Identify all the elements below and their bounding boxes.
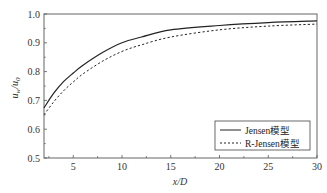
y-tick-label: 0.6 bbox=[28, 124, 41, 135]
x-tick-label: 25 bbox=[263, 161, 273, 172]
y-tick-label: 0.5 bbox=[28, 153, 41, 164]
y-tick-label: 0.7 bbox=[28, 95, 41, 106]
x-axis-title: x/D bbox=[172, 176, 188, 187]
legend-label-jensen: Jensen模型 bbox=[245, 125, 290, 136]
svg-text:uw/u0: uw/u0 bbox=[9, 77, 22, 98]
line-chart: 0.50.60.70.80.91.0 51015202530 x/D uw/u0… bbox=[0, 0, 327, 193]
y-tick-label: 0.8 bbox=[28, 66, 41, 77]
series-line-r-jensen bbox=[44, 24, 317, 115]
series-layer bbox=[44, 21, 317, 115]
y-tick-label: 0.9 bbox=[28, 37, 41, 48]
y-tick-label: 1.0 bbox=[28, 9, 41, 20]
legend-label-r-jensen: R-Jensen模型 bbox=[245, 138, 300, 149]
x-tick-label: 30 bbox=[312, 161, 322, 172]
legend: Jensen模型 R-Jensen模型 bbox=[215, 121, 310, 150]
x-tick-label: 5 bbox=[71, 161, 76, 172]
y-axis-title: uw/u0 bbox=[9, 77, 22, 98]
x-tick-label: 10 bbox=[117, 161, 127, 172]
series-line-jensen bbox=[44, 21, 317, 108]
x-tick-label: 15 bbox=[166, 161, 176, 172]
x-tick-label: 20 bbox=[215, 161, 225, 172]
